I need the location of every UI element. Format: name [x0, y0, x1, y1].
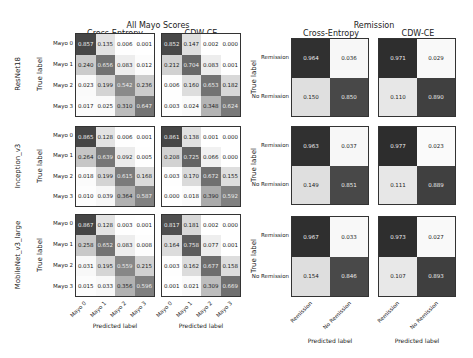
matrix-cell: 0.158: [221, 256, 241, 276]
matrix-cell: 0.149: [292, 166, 330, 205]
matrix-cell: 0.208: [162, 147, 182, 167]
matrix-cell: 0.001: [135, 34, 155, 55]
matrix-cell: 0.236: [135, 75, 155, 96]
matrix-cell: 0.138: [182, 127, 202, 147]
matrix-cell: 0.077: [201, 235, 221, 255]
remission-matrix-cdw: 0.9770.0230.1110.889: [378, 126, 456, 205]
x-tick-label: Remission: [367, 300, 400, 333]
matrix-cell: 0.066: [201, 147, 221, 167]
matrix-cell: 0.155: [221, 167, 241, 187]
mayo-matrix-cdw: 0.8610.1380.0010.0000.2080.7250.0660.000…: [161, 126, 241, 207]
matrix-cell: 0.182: [221, 75, 241, 96]
matrix-cell: 0.592: [221, 186, 241, 206]
x-tick-label: Mayo 0: [151, 300, 174, 323]
matrix-cell: 0.615: [115, 167, 135, 187]
matrix-cell: 0.168: [135, 167, 155, 187]
matrix-cell: 0.023: [417, 127, 455, 166]
matrix-cell: 0.018: [182, 186, 202, 206]
x-tick-label: No Remission: [319, 300, 352, 333]
remission-matrix-ce: 0.9670.0330.1540.846: [291, 216, 369, 297]
matrix-cell: 0.704: [182, 55, 202, 76]
matrix-cell: 0.264: [76, 147, 96, 167]
matrix-cell: 0.023: [76, 75, 96, 96]
matrix-cell: 0.001: [135, 215, 155, 235]
matrix-cell: 0.005: [135, 147, 155, 167]
x-tick-label: Mayo 1: [171, 300, 194, 323]
matrix-cell: 0.001: [162, 276, 182, 296]
matrix-cell: 0.852: [162, 34, 182, 55]
row-tick-label: Remission: [240, 232, 289, 238]
matrix-cell: 0.154: [292, 257, 330, 297]
matrix-cell: 0.861: [162, 127, 182, 147]
matrix-cell: 0.817: [162, 215, 182, 235]
model-label: Inception_v3: [14, 126, 22, 206]
matrix-cell: 0.110: [379, 78, 417, 117]
matrix-cell: 0.003: [115, 215, 135, 235]
matrix-cell: 0.128: [96, 127, 116, 147]
matrix-cell: 0.135: [96, 34, 116, 55]
matrix-cell: 0.215: [135, 256, 155, 276]
matrix-cell: 0.024: [182, 96, 202, 117]
matrix-cell: 0.003: [162, 96, 182, 117]
matrix-cell: 0.002: [201, 215, 221, 235]
matrix-cell: 0.006: [162, 75, 182, 96]
matrix-cell: 0.036: [330, 39, 368, 78]
matrix-cell: 0.008: [135, 235, 155, 255]
matrix-cell: 0.212: [162, 55, 182, 76]
remission-matrix-ce: 0.9630.0370.1490.851: [291, 126, 369, 205]
matrix-cell: 0.893: [417, 257, 455, 297]
matrix-cell: 0.846: [330, 257, 368, 297]
matrix-cell: 0.258: [76, 235, 96, 255]
matrix-cell: 0.889: [417, 166, 455, 205]
matrix-cell: 0.010: [76, 186, 96, 206]
matrix-cell: 0.150: [292, 78, 330, 117]
model-label: MobileNet_v3_large: [14, 215, 22, 295]
matrix-cell: 0.162: [182, 256, 202, 276]
matrix-cell: 0.111: [379, 166, 417, 205]
matrix-cell: 0.021: [182, 276, 202, 296]
matrix-cell: 0.669: [221, 276, 241, 296]
x-tick-label: Mayo 2: [191, 300, 214, 323]
mayo-matrix-ce: 0.8650.1280.0060.0010.2640.6390.0920.005…: [75, 126, 155, 207]
matrix-cell: 0.092: [115, 147, 135, 167]
x-tick-label: No Remission: [406, 300, 439, 333]
mayo-matrix-cdw: 0.8520.1470.0020.0000.2120.7040.0830.001…: [161, 33, 241, 117]
true-label: True label: [250, 37, 258, 117]
matrix-cell: 0.164: [162, 235, 182, 255]
matrix-cell: 0.653: [201, 75, 221, 96]
matrix-cell: 0.890: [417, 78, 455, 117]
matrix-cell: 0.000: [221, 127, 241, 147]
matrix-cell: 0.001: [221, 55, 241, 76]
matrix-cell: 0.000: [221, 147, 241, 167]
matrix-cell: 0.309: [201, 276, 221, 296]
matrix-cell: 0.725: [182, 147, 202, 167]
mayo-matrix-cdw: 0.8170.1810.0020.0000.1640.7580.0770.001…: [161, 214, 241, 297]
x-tick-label: Mayo 0: [65, 300, 88, 323]
row-tick-label: No Remission: [240, 273, 289, 279]
x-axis-label: Predicted label: [75, 322, 155, 329]
row-tick-label: Remission: [240, 54, 289, 60]
matrix-cell: 0.147: [182, 34, 202, 55]
matrix-cell: 0.240: [76, 55, 96, 76]
matrix-cell: 0.003: [162, 256, 182, 276]
mayo-matrix-ce: 0.8570.1350.0060.0010.2400.6560.0830.012…: [75, 33, 155, 117]
mayo-matrix-ce: 0.8670.1280.0030.0010.2580.6520.0830.008…: [75, 214, 155, 297]
matrix-cell: 0.624: [221, 96, 241, 117]
remission-matrix-cdw: 0.9710.0290.1100.890: [378, 38, 456, 117]
matrix-cell: 0.967: [292, 217, 330, 257]
right-col-title-ce: Cross-Entropy: [291, 29, 371, 38]
matrix-cell: 0.390: [201, 186, 221, 206]
matrix-cell: 0.037: [330, 127, 368, 166]
x-tick-label: Mayo 2: [105, 300, 128, 323]
matrix-cell: 0.677: [201, 256, 221, 276]
matrix-cell: 0.002: [201, 34, 221, 55]
matrix-cell: 0.850: [330, 78, 368, 117]
matrix-cell: 0.348: [201, 96, 221, 117]
matrix-cell: 0.758: [182, 235, 202, 255]
matrix-cell: 0.181: [182, 215, 202, 235]
matrix-cell: 0.587: [135, 186, 155, 206]
matrix-cell: 0.000: [162, 186, 182, 206]
x-tick-label: Mayo 3: [211, 300, 234, 323]
matrix-cell: 0.865: [76, 127, 96, 147]
matrix-cell: 0.973: [379, 217, 417, 257]
